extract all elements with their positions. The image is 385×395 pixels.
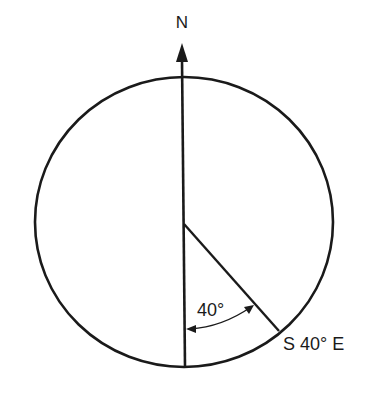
arc-arrowhead-right-icon: [244, 305, 254, 314]
north-arrow-icon: [176, 43, 188, 62]
north-label: N: [176, 13, 188, 32]
bearing-diagram: N 40° S 40° E: [0, 0, 385, 395]
angle-label: 40°: [197, 300, 224, 320]
arc-arrowhead-left-icon: [186, 325, 196, 333]
north-south-line: [182, 60, 185, 367]
bearing-label: S 40° E: [283, 334, 344, 354]
